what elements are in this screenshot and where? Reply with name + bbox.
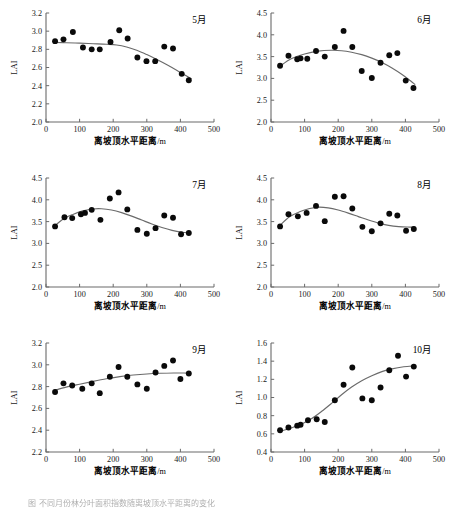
- panel-month-label: 9月: [192, 345, 206, 355]
- data-point: [369, 75, 375, 81]
- data-point: [52, 389, 58, 395]
- data-point: [82, 210, 88, 216]
- trend-line: [279, 50, 414, 84]
- data-point: [403, 78, 409, 84]
- panel-month-label: 5月: [192, 15, 206, 25]
- data-point: [161, 213, 167, 219]
- chart-panel-7月: 2.02.53.03.54.04.50100200300400500LAI离坡顶…: [0, 165, 225, 330]
- data-point: [349, 365, 355, 371]
- data-point: [411, 226, 417, 232]
- data-point: [52, 38, 58, 44]
- panel-month-label: 8月: [417, 180, 431, 190]
- axes: [46, 343, 214, 452]
- svg-text:2.5: 2.5: [32, 261, 42, 270]
- svg-text:2.5: 2.5: [257, 261, 267, 270]
- svg-text:3.5: 3.5: [32, 218, 42, 227]
- chart-panel-10月: 0.40.60.81.01.21.41.60100200300400500LAI…: [225, 330, 450, 495]
- svg-text:1.0: 1.0: [257, 393, 267, 402]
- data-point: [134, 227, 140, 233]
- data-point: [107, 196, 113, 202]
- svg-text:500: 500: [208, 290, 220, 299]
- data-point: [286, 53, 292, 59]
- svg-text:0: 0: [44, 455, 48, 464]
- y-axis-ticks: 2.02.53.03.54.04.5: [257, 9, 274, 127]
- data-point: [277, 223, 283, 229]
- svg-text:2.0: 2.0: [257, 283, 267, 292]
- data-point: [97, 217, 103, 223]
- svg-text:300: 300: [366, 290, 378, 299]
- data-point: [359, 68, 365, 74]
- svg-text:2.4: 2.4: [32, 426, 42, 435]
- svg-text:3.0: 3.0: [257, 74, 267, 83]
- data-point: [322, 218, 328, 224]
- data-point: [178, 231, 184, 237]
- svg-text:300: 300: [141, 290, 153, 299]
- svg-text:400: 400: [174, 455, 186, 464]
- data-point: [170, 45, 176, 51]
- data-point: [378, 220, 384, 226]
- svg-text:200: 200: [107, 455, 119, 464]
- data-point: [61, 36, 67, 42]
- svg-text:3.5: 3.5: [257, 218, 267, 227]
- data-point: [144, 386, 150, 392]
- data-point: [170, 215, 176, 221]
- data-point: [89, 380, 95, 386]
- x-axis-label: 离坡顶水平距离/m: [94, 465, 166, 476]
- trend-line: [279, 366, 413, 432]
- x-axis-label: 离坡顶水平距离/m: [94, 300, 166, 311]
- svg-text:2.6: 2.6: [32, 404, 42, 413]
- svg-text:3.2: 3.2: [32, 339, 42, 348]
- svg-text:4.0: 4.0: [257, 196, 267, 205]
- x-axis-ticks: 0100200300400500: [44, 119, 220, 134]
- x-axis-label: 离坡顶水平距离/m: [319, 465, 391, 476]
- svg-text:2.2: 2.2: [32, 448, 42, 457]
- y-axis-label: LAI: [234, 60, 244, 74]
- y-axis-ticks: 2.02.22.42.62.83.03.2: [32, 9, 49, 127]
- svg-text:100: 100: [73, 290, 85, 299]
- svg-text:2.2: 2.2: [32, 100, 42, 109]
- data-point: [79, 386, 85, 392]
- axes: [271, 343, 439, 452]
- svg-text:0: 0: [44, 125, 48, 134]
- svg-text:3.0: 3.0: [32, 27, 42, 36]
- data-point: [124, 374, 130, 380]
- figure-caption-text: 图 不同月份林分叶面积指数随离坡顶水平距离的变化: [0, 497, 450, 508]
- chart-panel-5月: 2.02.22.42.62.83.03.20100200300400500LAI…: [0, 0, 225, 165]
- y-axis-label: LAI: [9, 390, 19, 404]
- panel-month-label: 10月: [413, 345, 431, 355]
- svg-text:1.2: 1.2: [257, 375, 267, 384]
- data-point: [144, 58, 150, 64]
- svg-text:1.6: 1.6: [257, 339, 267, 348]
- svg-text:2.6: 2.6: [32, 63, 42, 72]
- x-axis-ticks: 0100200300400500: [269, 119, 445, 134]
- x-axis-ticks: 0100200300400500: [269, 284, 445, 299]
- data-point: [369, 397, 375, 403]
- svg-text:200: 200: [332, 455, 344, 464]
- data-point: [359, 224, 365, 230]
- x-axis-label: 离坡顶水平距离/m: [319, 135, 391, 146]
- data-point: [305, 417, 311, 423]
- data-point: [108, 39, 114, 45]
- svg-text:500: 500: [433, 125, 445, 134]
- svg-text:3.5: 3.5: [257, 53, 267, 62]
- chart-panel-8月: 2.02.53.03.54.04.50100200300400500LAI离坡顶…: [225, 165, 450, 330]
- data-point: [170, 357, 176, 363]
- y-axis-label: LAI: [234, 225, 244, 239]
- data-point: [369, 228, 375, 234]
- data-point: [411, 364, 417, 370]
- data-point: [394, 213, 400, 219]
- data-point: [304, 56, 310, 62]
- svg-text:100: 100: [298, 125, 310, 134]
- data-point: [313, 48, 319, 54]
- data-point: [298, 55, 304, 61]
- data-point: [277, 427, 283, 433]
- x-axis-label: 离坡顶水平距离/m: [319, 300, 391, 311]
- data-point: [341, 382, 347, 388]
- svg-text:2.5: 2.5: [257, 96, 267, 105]
- data-point: [314, 416, 320, 422]
- y-axis-label: LAI: [234, 390, 244, 404]
- trend-line: [54, 209, 189, 234]
- svg-text:0: 0: [269, 455, 273, 464]
- data-point: [61, 380, 67, 386]
- data-point: [386, 211, 392, 217]
